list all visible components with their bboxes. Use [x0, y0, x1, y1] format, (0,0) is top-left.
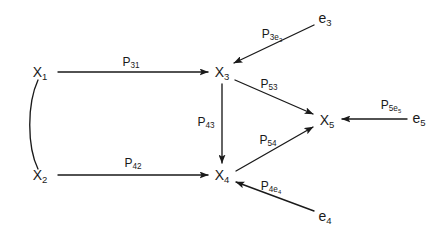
node-x5-base: X — [320, 112, 329, 128]
edge-label-p3e3-subscript-inner: 3 — [279, 37, 282, 43]
edge-label-p31: P31 — [122, 56, 139, 68]
edge-label-p3e3: P3e3 — [262, 28, 282, 40]
edge-label-p4e4: P4e4 — [261, 180, 281, 192]
node-e4-subscript: 4 — [326, 215, 331, 226]
node-e4: e4 — [318, 209, 331, 223]
edge-label-p31-subscript: 31 — [130, 61, 139, 70]
node-x2-base: X — [33, 167, 42, 183]
edge-label-p53-base: P — [260, 77, 268, 91]
node-e4-base: e — [318, 208, 326, 224]
edge-label-p31-base: P — [122, 55, 130, 69]
diagram-canvas — [0, 0, 446, 239]
edge-label-p5e5-subscript-inner: 5 — [398, 108, 401, 114]
node-x2-subscript: 2 — [42, 174, 47, 185]
edge-label-p53-subscript: 53 — [268, 83, 277, 92]
node-x1-base: X — [33, 64, 42, 80]
node-x4: X4 — [215, 168, 230, 182]
edge-label-p3e3-subscript: 3e3 — [270, 33, 282, 42]
edge-label-p43-base: P — [197, 115, 205, 129]
edge-label-p54-subscript: 54 — [267, 139, 276, 148]
edge-label-p3e3-base: P — [262, 27, 270, 41]
edge-label-p5e5-subscript: 5e5 — [389, 104, 401, 113]
edge-label-p53: P53 — [260, 78, 277, 90]
node-x5-subscript: 5 — [329, 119, 334, 130]
node-x1: X1 — [33, 65, 48, 79]
node-e3: e3 — [318, 11, 331, 25]
node-x4-subscript: 4 — [224, 174, 229, 185]
edge-label-p4e4-subscript: 4e4 — [269, 185, 281, 194]
node-x5: X5 — [320, 113, 335, 127]
edge-label-p43-subscript: 43 — [205, 121, 214, 130]
edge-label-p4e4-subscript-inner: 4 — [278, 189, 281, 195]
node-x1-subscript: 1 — [42, 71, 47, 82]
edge-label-p42: P42 — [124, 157, 141, 169]
node-x3-subscript: 3 — [224, 71, 229, 82]
path-diagram: X1 X2 X3 X4 X5 e3 e4 e5 P31 P42 P43 P53 … — [0, 0, 446, 239]
edge-corr-x1-x2 — [30, 80, 38, 169]
node-e5-base: e — [412, 110, 420, 126]
node-e3-base: e — [318, 10, 326, 26]
node-e5: e5 — [412, 111, 425, 125]
node-x2: X2 — [33, 168, 48, 182]
node-e3-subscript: 3 — [326, 17, 331, 28]
edge-label-p54-base: P — [259, 133, 267, 147]
edge-label-p4e4-base: P — [261, 179, 269, 193]
edge-label-p5e5: P5e5 — [381, 99, 401, 111]
edge-label-p43: P43 — [197, 116, 214, 128]
edge-label-p42-subscript: 42 — [132, 162, 141, 171]
edge-label-p54: P54 — [259, 134, 276, 146]
node-x3: X3 — [215, 65, 230, 79]
edge-label-p5e5-base: P — [381, 98, 389, 112]
node-e5-subscript: 5 — [420, 117, 425, 128]
edge-label-p42-base: P — [124, 156, 132, 170]
node-x3-base: X — [215, 64, 224, 80]
node-x4-base: X — [215, 167, 224, 183]
